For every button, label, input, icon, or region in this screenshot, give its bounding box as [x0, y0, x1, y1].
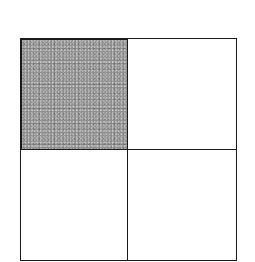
cell-top-left-shaded: [20, 38, 129, 151]
cell-bottom-left: [20, 149, 129, 261]
square-grid-2x2: [20, 38, 237, 261]
cell-top-right: [127, 38, 237, 151]
cell-bottom-right: [127, 149, 237, 261]
